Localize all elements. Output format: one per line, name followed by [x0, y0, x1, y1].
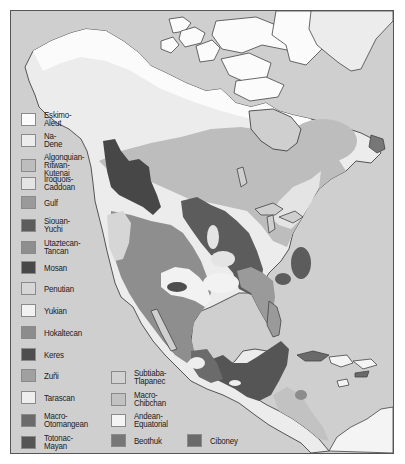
legend-item-totonac-mayan: Totonac- Mayan	[21, 434, 77, 450]
legend-swatch	[21, 177, 36, 190]
legend-swatch	[21, 436, 36, 449]
legend-label: Utaztecan-Tancan	[44, 239, 81, 255]
region-tarascan	[189, 357, 205, 369]
legend-item-subtiaba-tlapanec: Subtiaba- Tlapanec	[111, 369, 171, 385]
legend-item-yukian: Yukian	[21, 304, 70, 317]
legend-label: Mosan	[44, 264, 67, 272]
legend-label: Na-Dene	[44, 132, 62, 148]
legend-label: Gulf	[44, 199, 58, 207]
legend-item-penutian: Penutian	[21, 282, 78, 295]
legend-item-gulf: Gulf	[21, 196, 60, 209]
legend-swatch	[187, 434, 202, 447]
legend-label: Andean- Equatorial	[134, 412, 168, 428]
legend-item-ciboney: Ciboney	[187, 434, 242, 447]
legend-item-zuni: Zuñi	[21, 369, 61, 382]
legend-label: Zuñi	[44, 372, 59, 380]
legend-label: Penutian	[44, 285, 74, 293]
region-southeast-siouan-2	[275, 273, 291, 285]
legend-label: Yukian	[44, 307, 67, 315]
legend-item-macro-chibchan: Macro- Chibchan	[111, 391, 170, 407]
legend-label: Iroquois-Caddoan	[44, 175, 75, 191]
legend-item-utaztecan-tancan: Utaztecan-Tancan	[21, 239, 86, 255]
legend-item-andean-equatorial: Andean- Equatorial	[111, 412, 173, 428]
region-light-mexico	[229, 380, 241, 386]
legend-swatch	[21, 369, 36, 382]
legend-item-iroquois-caddoan: Iroquois-Caddoan	[21, 175, 79, 191]
legend-swatch	[21, 134, 36, 147]
legend-label: Beothuk	[134, 437, 162, 445]
legend-item-mosan: Mosan	[21, 261, 70, 274]
legend-item-siouan-yuchi: Siouan-Yuchi	[21, 217, 74, 233]
legend-label: Subtiaba- Tlapanec	[134, 369, 166, 385]
legend-swatch	[21, 391, 36, 404]
map-frame: Eskimo-Aleut Na-Dene Algonquian- Ritwan-…	[10, 10, 394, 454]
legend-item-keres: Keres	[21, 348, 67, 361]
legend-item-beothuk: Beothuk	[111, 434, 166, 447]
legend-swatch	[21, 219, 36, 232]
legend-item-tarascan: Tarascan	[21, 391, 79, 404]
region-light-blob	[203, 273, 239, 293]
legend-swatch	[21, 159, 36, 172]
legend-swatch	[21, 196, 36, 209]
region-southeast-siouan	[291, 247, 311, 279]
legend-item-hokaltecan: Hokaltecan	[21, 326, 87, 339]
region-hokaltecan-central	[295, 390, 307, 400]
region-iroquois-caddoan-blob-2	[211, 251, 235, 267]
legend-label: Keres	[44, 351, 64, 359]
legend-swatch	[21, 348, 36, 361]
legend-item-macro-otomangean: Macro- Otomangean	[21, 412, 94, 428]
legend-label: Ciboney	[210, 437, 238, 445]
legend-label: Macro- Otomangean	[44, 412, 88, 428]
legend-swatch	[21, 304, 36, 317]
legend-swatch	[21, 241, 36, 254]
legend-label: Hokaltecan	[44, 329, 82, 337]
legend-swatch	[111, 371, 126, 384]
legend-swatch	[21, 261, 36, 274]
legend-label: Siouan-Yuchi	[44, 217, 70, 233]
legend-item-na-dene: Na-Dene	[21, 132, 65, 148]
legend-swatch	[21, 113, 36, 126]
legend-swatch	[111, 434, 126, 447]
region-hudson-algonquian	[289, 119, 357, 163]
legend-label: Eskimo-Aleut	[44, 111, 71, 127]
legend-swatch	[21, 282, 36, 295]
legend-swatch	[21, 326, 36, 339]
region-iroquois-caddoan-blob	[207, 225, 219, 249]
legend-item-eskimo-aleut: Eskimo-Aleut	[21, 111, 75, 127]
legend-swatch	[111, 414, 126, 427]
legend-swatch	[111, 393, 126, 406]
legend-label: Totonac- Mayan	[44, 434, 73, 450]
legend-label: Tarascan	[44, 394, 75, 402]
legend-label: Macro- Chibchan	[134, 391, 166, 407]
legend-swatch	[21, 414, 36, 427]
region-keres	[167, 282, 187, 292]
